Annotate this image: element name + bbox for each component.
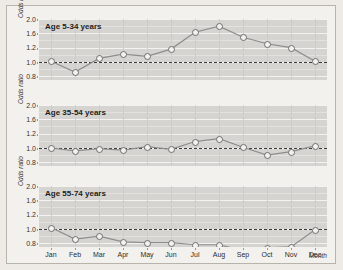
y-tick-label: 1.2: [20, 44, 36, 51]
x-tick-mark: [291, 248, 292, 250]
y-tick-label: 1.6: [20, 116, 36, 123]
data-point-marker: [48, 145, 55, 152]
x-tick-mark: [219, 248, 220, 250]
data-point-marker: [120, 239, 127, 246]
data-point-marker: [288, 244, 295, 247]
data-point-marker: [192, 242, 199, 247]
x-axis-title: Month: [309, 252, 327, 259]
x-tick-mark: [195, 248, 196, 250]
y-tick-label: 1.2: [20, 130, 36, 137]
x-tick-label: Aug: [206, 251, 232, 258]
y-tick-mark: [37, 162, 38, 164]
y-tick-mark: [37, 134, 38, 136]
y-tick-label: 2.0: [20, 183, 36, 190]
x-tick-label: Jan: [38, 251, 64, 258]
x-tick-mark: [51, 248, 52, 250]
y-tick-label: 0.8: [20, 240, 36, 247]
y-tick-label: 1.0: [20, 226, 36, 233]
data-point-marker: [96, 146, 103, 153]
data-point-marker: [72, 148, 79, 155]
data-point-marker: [312, 227, 319, 234]
data-point-marker: [48, 225, 55, 232]
y-tick-mark: [37, 119, 38, 121]
y-tick-mark: [37, 105, 38, 107]
y-tick-label: 2.0: [20, 102, 36, 109]
data-point-marker: [144, 144, 151, 151]
y-axis-title-panel-3: Odds ratio: [17, 156, 24, 186]
data-point-marker: [72, 69, 79, 76]
x-tick-mark: [315, 248, 316, 250]
data-point-marker: [216, 136, 223, 143]
panel-title-age-5-34: Age 5-34 years: [45, 22, 101, 31]
x-tick-label: Apr: [110, 251, 136, 258]
x-tick-mark: [267, 248, 268, 250]
y-tick-label: 1.6: [20, 197, 36, 204]
x-tick-label: Jun: [158, 251, 184, 258]
x-tick-label: Feb: [62, 251, 88, 258]
x-tick-label: Sep: [230, 251, 256, 258]
x-tick-mark: [171, 248, 172, 250]
data-point-marker: [144, 240, 151, 247]
x-tick-label: Nov: [278, 251, 304, 258]
panel-title-age-35-54: Age 35-54 years: [45, 108, 106, 117]
data-point-marker: [216, 242, 223, 247]
x-tick-label: Mar: [86, 251, 112, 258]
y-tick-mark: [37, 148, 38, 150]
y-tick-label: 2.0: [20, 16, 36, 23]
data-point-marker: [192, 139, 199, 146]
y-tick-mark: [37, 186, 38, 188]
y-tick-label: 1.2: [20, 211, 36, 218]
y-tick-mark: [37, 200, 38, 202]
y-tick-mark: [37, 48, 38, 50]
x-tick-label: Oct: [254, 251, 280, 258]
y-tick-mark: [37, 19, 38, 21]
x-tick-mark: [123, 248, 124, 250]
figure-panel-container: Odds ratio 2.01.61.21.00.8 Age 5-34 year…: [6, 5, 336, 264]
y-tick-label: 1.6: [20, 30, 36, 37]
y-tick-mark: [37, 229, 38, 231]
x-tick-mark: [243, 248, 244, 250]
x-tick-label: Jul: [182, 251, 208, 258]
data-point-marker: [288, 149, 295, 156]
x-tick-mark: [99, 248, 100, 250]
y-axis-title-panel-2: Odds ratio: [17, 74, 24, 104]
y-tick-mark: [37, 76, 38, 78]
data-point-marker: [288, 45, 295, 52]
data-point-marker: [168, 240, 175, 247]
y-tick-mark: [37, 62, 38, 64]
x-tick-mark: [75, 248, 76, 250]
panel-title-age-55-74: Age 55-74 years: [45, 189, 106, 198]
y-tick-label: 1.0: [20, 59, 36, 66]
y-tick-mark: [37, 33, 38, 35]
data-point-marker: [72, 236, 79, 243]
x-tick-label: May: [134, 251, 160, 258]
y-tick-mark: [37, 215, 38, 217]
data-point-marker: [264, 41, 271, 48]
data-point-marker: [312, 143, 319, 150]
y-tick-mark: [37, 243, 38, 245]
y-tick-label: 1.0: [20, 145, 36, 152]
x-tick-mark: [147, 248, 148, 250]
